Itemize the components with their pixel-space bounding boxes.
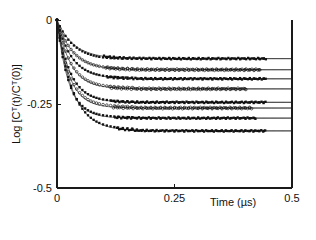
x-axis-title: Time (µs) [210, 196, 256, 208]
data-marker-filled-square [229, 117, 231, 119]
data-marker-filled-square [111, 57, 113, 59]
data-marker-filled-square [124, 129, 126, 131]
data-marker-filled-square [90, 111, 92, 113]
data-marker-filled-square [120, 77, 122, 79]
data-marker-filled-square [154, 58, 156, 60]
data-marker-filled-square [98, 98, 100, 100]
data-marker-filled-square [70, 85, 72, 87]
data-marker-filled-square [237, 116, 239, 118]
data-marker-filled-square [211, 129, 213, 131]
data-marker-filled-square [183, 102, 185, 104]
data-marker-filled-square [227, 101, 229, 103]
data-marker-filled-square [217, 102, 219, 104]
data-marker-filled-square [190, 58, 192, 60]
data-marker-filled-square [171, 117, 173, 119]
data-marker-filled-square [204, 57, 206, 59]
data-marker-filled-square [237, 78, 239, 80]
data-marker-filled-square [120, 100, 122, 102]
data-marker-filled-square [207, 130, 209, 132]
data-marker-filled-square [172, 101, 174, 103]
data-marker-filled-square [160, 58, 162, 60]
data-marker-filled-square [231, 57, 233, 59]
data-marker-filled-square [148, 57, 150, 59]
data-marker-filled-square [251, 101, 253, 103]
data-marker-filled-square [217, 78, 219, 80]
data-marker-filled-square [142, 78, 144, 80]
data-marker-filled-square [250, 117, 252, 119]
data-marker-filled-square [199, 101, 201, 103]
data-marker-filled-square [243, 57, 245, 59]
data-marker-filled-square [84, 107, 86, 109]
data-marker-filled-square [67, 79, 69, 81]
data-marker-filled-square [138, 102, 140, 104]
data-marker-filled-square [111, 76, 113, 78]
data-marker-filled-square [140, 77, 142, 79]
data-marker-filled-square [156, 100, 158, 102]
data-marker-filled-square [215, 78, 217, 80]
data-marker-filled-square [136, 78, 138, 80]
data-marker-filled-square [209, 130, 211, 132]
data-marker-filled-square [225, 118, 227, 120]
data-marker-filled-square [122, 116, 124, 118]
data-marker-filled-square [249, 77, 251, 79]
data-marker-filled-square [219, 117, 221, 119]
data-marker-filled-square [247, 57, 249, 59]
data-marker-filled-square [185, 129, 187, 131]
data-marker-filled-square [191, 78, 193, 80]
data-marker-filled-square [122, 128, 124, 130]
data-marker-filled-square [76, 82, 78, 84]
data-marker-filled-square [70, 73, 72, 75]
data-marker-filled-square [187, 102, 189, 104]
y-axis-title-group: Log [Cᵀ(t)/Cᵀ(0)] [10, 64, 22, 144]
data-marker-filled-square [223, 130, 225, 132]
data-marker-filled-square [249, 58, 251, 60]
data-marker-filled-square [98, 74, 100, 76]
data-marker-filled-square [185, 118, 187, 120]
data-marker-filled-square [262, 102, 264, 104]
data-marker-filled-square [201, 117, 203, 119]
data-marker-filled-square [95, 55, 97, 57]
data-marker-filled-square [179, 130, 181, 132]
data-marker-filled-square [107, 56, 109, 58]
data-marker-filled-square [170, 77, 172, 79]
data-marker-filled-square [233, 57, 235, 59]
data-marker-filled-square [159, 130, 161, 132]
data-marker-filled-square [181, 117, 183, 119]
data-marker-filled-square [146, 78, 148, 80]
data-marker-filled-square [113, 126, 115, 128]
data-marker-filled-square [185, 100, 187, 102]
data-marker-filled-square [102, 114, 104, 116]
data-marker-filled-square [195, 78, 197, 80]
data-marker-filled-square [109, 115, 111, 117]
data-marker-filled-square [162, 101, 164, 103]
data-marker-filled-square [235, 58, 237, 60]
data-marker-filled-square [252, 130, 254, 132]
data-marker-filled-square [84, 111, 86, 113]
data-marker-filled-square [245, 58, 247, 60]
data-marker-filled-square [158, 78, 160, 80]
data-marker-filled-square [215, 58, 217, 60]
data-marker-filled-square [140, 58, 142, 60]
data-marker-filled-square [200, 58, 202, 60]
data-marker-filled-square [207, 57, 209, 59]
data-marker-filled-square [265, 78, 267, 80]
data-marker-filled-square [140, 129, 142, 131]
data-marker-filled-square [219, 101, 221, 103]
data-marker-filled-square [227, 78, 229, 80]
data-marker-filled-square [191, 101, 193, 103]
data-marker-filled-square [158, 57, 160, 59]
data-marker-filled-square [61, 30, 63, 32]
data-marker-filled-square [181, 129, 183, 131]
data-marker-filled-square [134, 117, 136, 119]
data-marker-filled-square [243, 77, 245, 79]
data-marker-filled-square [261, 78, 263, 80]
data-marker-filled-square [247, 78, 249, 80]
data-marker-filled-square [219, 77, 221, 79]
data-marker-filled-square [213, 102, 215, 104]
data-marker-filled-square [70, 87, 72, 89]
data-marker-filled-square [170, 101, 172, 103]
data-marker-filled-square [161, 129, 163, 131]
data-marker-filled-square [242, 117, 244, 119]
data-marker-filled-square [64, 69, 66, 71]
data-marker-filled-square [124, 101, 126, 103]
